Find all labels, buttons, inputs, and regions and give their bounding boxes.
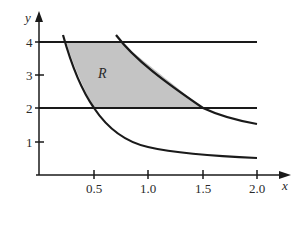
y-tick-label-3: 3 — [26, 68, 33, 83]
x-tick-label-1-0: 1.0 — [140, 181, 156, 196]
y-tick-label-1: 1 — [26, 135, 33, 150]
y-tick-label-2: 2 — [26, 101, 33, 116]
y-tick-label-4: 4 — [26, 35, 33, 50]
x-axis-label: x — [281, 178, 288, 193]
x-tick-label-1-5: 1.5 — [195, 181, 211, 196]
y-axis-arrow-icon — [35, 11, 43, 22]
graph-figure: 1 2 3 4 0.5 1.0 1.5 2.0 y x R — [0, 0, 299, 244]
x-tick-label-2-0: 2.0 — [249, 181, 265, 196]
x-tick-label-0-5: 0.5 — [86, 181, 102, 196]
region-label-r: R — [97, 66, 107, 81]
y-axis-label: y — [23, 10, 31, 25]
